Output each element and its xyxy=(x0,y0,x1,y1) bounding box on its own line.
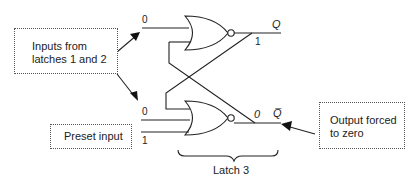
q-output-value: 1 xyxy=(255,36,261,47)
inputs-callout-line2: latches 1 and 2 xyxy=(32,53,117,66)
preset-callout-box: Preset input xyxy=(50,124,132,149)
inputs-callout-line1: Inputs from xyxy=(32,40,117,53)
top-nor-gate xyxy=(185,16,228,50)
top-inverter-bubble xyxy=(228,30,234,36)
qbar-output-value: 0 xyxy=(254,108,260,120)
latch-brace xyxy=(178,150,278,161)
latch-3-label: Latch 3 xyxy=(213,164,249,176)
output-callout-line2: to zero xyxy=(330,127,404,140)
q-label: Q xyxy=(272,18,281,30)
inputs-callout-box: Inputs from latches 1 and 2 xyxy=(14,28,118,74)
qbar-label: Q̅ xyxy=(273,107,282,119)
bottom-input-b-value: 1 xyxy=(142,135,148,146)
output-callout-line1: Output forced xyxy=(330,114,404,127)
bottom-nor-gate xyxy=(185,101,228,135)
bottom-inverter-bubble xyxy=(228,115,234,121)
top-input-value: 0 xyxy=(142,14,148,25)
preset-callout-label: Preset input xyxy=(64,130,131,143)
bottom-input-a-value: 0 xyxy=(142,106,148,117)
output-callout-box: Output forced to zero xyxy=(319,102,405,149)
arrow-head-output xyxy=(281,121,292,131)
